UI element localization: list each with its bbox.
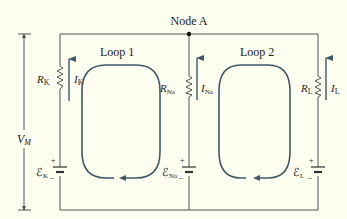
membrane-voltage-indicator: VM (17, 33, 32, 211)
loop-2: Loop 2 (219, 45, 290, 181)
vm-label: VM (17, 132, 32, 147)
loop-1-arrow-icon (119, 175, 126, 181)
branch-l: RL IL + – ℰL (293, 58, 340, 182)
circuit-wires (60, 34, 318, 210)
resistor-k-icon (57, 66, 63, 89)
loop-2-label: Loop 2 (240, 45, 274, 59)
resistor-na-label: RNa (159, 82, 176, 96)
loop-1: Loop 1 (82, 45, 160, 181)
svg-text:–: – (49, 173, 55, 182)
resistor-k-label: RK (36, 73, 50, 87)
node-a-dot (187, 32, 191, 36)
resistor-l-label: RL (300, 82, 313, 96)
circuit-diagram: Node A VM RK IK + – ℰK RNa INa + – ℰNa R (0, 0, 347, 219)
current-l-label: IL (330, 82, 340, 96)
svg-text:+: + (309, 156, 314, 165)
loop-2-path (219, 65, 290, 178)
svg-text:–: – (178, 173, 184, 182)
resistor-na-icon (186, 76, 192, 97)
branch-na: RNa INa + – ℰNa (159, 58, 214, 182)
svg-text:+: + (180, 156, 185, 165)
loop-1-path (82, 65, 160, 178)
loop-1-label: Loop 1 (100, 45, 134, 59)
svg-text:–: – (307, 173, 313, 182)
node-a-label: Node A (171, 14, 208, 28)
svg-text:+: + (51, 156, 56, 165)
emf-na-label: ℰNa (162, 166, 178, 180)
emf-k-label: ℰK (36, 166, 48, 180)
resistor-l-icon (315, 76, 321, 97)
loop-2-arrow-icon (253, 175, 260, 181)
emf-l-label: ℰL (293, 166, 304, 180)
current-na-label: INa (200, 82, 214, 96)
